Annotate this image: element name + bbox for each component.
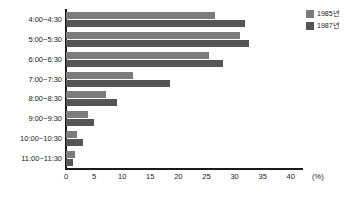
bar-group [66,30,302,50]
bar-chart: 4:00~4:305:00~5:306:00~6:307:00~7:308:00… [0,0,353,205]
bar [66,139,83,146]
legend-label: 1987년 [317,22,339,30]
bar [66,60,223,67]
x-axis-unit-label: (%) [312,172,324,181]
y-axis-category-label: 9:00~9:30 [28,114,62,123]
bar [66,111,88,118]
y-axis-category-label: 10:00~10:30 [20,134,62,143]
x-axis-tick-labels: (%) 0510152025303540 [0,170,353,184]
bar [66,99,117,106]
x-axis-tick-label: 35 [258,172,266,181]
x-axis-tick-label: 30 [230,172,238,181]
bar-group [66,129,302,149]
bar [66,40,249,47]
bar [66,80,170,87]
x-axis-tick-label: 15 [146,172,154,181]
bar-group [66,69,302,89]
y-axis-category-labels: 4:00~4:305:00~5:306:00~6:307:00~7:308:00… [0,10,62,168]
bar-group [66,50,302,70]
y-axis-category-label: 4:00~4:30 [28,15,62,24]
legend-label: 1985년 [317,10,339,18]
legend-color-swatch [306,10,314,18]
y-axis-category-label: 11:00~11:30 [21,154,62,163]
x-axis-tick-label: 20 [174,172,182,181]
chart-legend: 1985년1987년 [306,10,339,34]
x-axis-tick-label: 5 [92,172,96,181]
bar [66,20,245,27]
y-axis-category-label: 5:00~5:30 [28,35,62,44]
bar [66,72,133,79]
legend-item: 1985년 [306,10,339,18]
bar-group [66,10,302,30]
bar [66,91,106,98]
bar [66,131,77,138]
bar [66,151,75,158]
bar [66,12,215,19]
x-axis-tick-label: 40 [287,172,295,181]
x-axis-tick-label: 0 [64,172,68,181]
y-axis-category-label: 6:00~6:30 [28,55,62,64]
bar [66,159,73,166]
bar [66,32,240,39]
y-axis-category-label: 7:00~7:30 [28,75,62,84]
bar-group [66,89,302,109]
bar-group [66,148,302,168]
legend-color-swatch [306,22,314,30]
bar [66,119,94,126]
y-axis-category-label: 8:00~8:30 [28,94,62,103]
legend-item: 1987년 [306,22,339,30]
x-axis-tick-label: 10 [118,172,126,181]
bar-group [66,109,302,129]
bar [66,52,209,59]
plot-area [66,10,302,168]
x-axis-tick-label: 25 [202,172,210,181]
bar-series-container [66,10,302,168]
